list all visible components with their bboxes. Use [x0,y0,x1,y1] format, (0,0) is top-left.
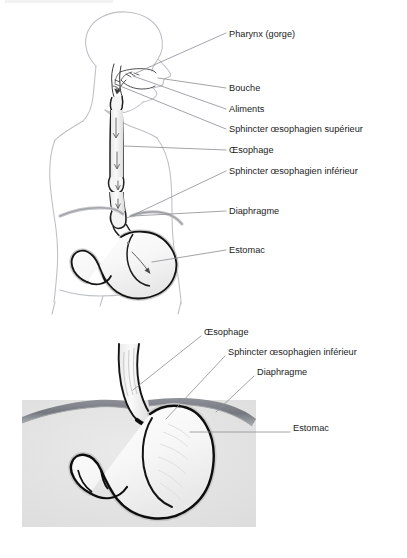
label-sphincter-oesophagien-inferieur-magnified: Sphincter œsophagien inférieur [228,347,357,358]
anatomy-figure-root: Pharynx (gorge) Bouche Aliments Sphincte… [0,0,407,558]
label-diaphragme-magnified: Diaphragme [257,367,307,378]
torso-continuation-lines [52,302,181,314]
upper-figure-group [50,12,226,306]
lower-figure-group [22,302,290,527]
label-pharynx: Pharynx (gorge) [229,29,295,40]
leader-oesophage [124,146,226,150]
leader-pharynx [136,33,226,73]
stomach-upper [72,232,177,299]
label-estomac: Estomac [229,245,265,256]
label-estomac-magnified: Estomac [293,423,329,434]
leader-oesophage-2 [133,336,201,390]
label-sphincter-oesophagien-superieur: Sphincter œsophagien supérieur [229,124,363,135]
label-diaphragme: Diaphragme [229,206,279,217]
leader-sphincter-inferieur [127,171,226,218]
label-aliments: Aliments [229,104,264,115]
esophagus-upper [109,96,134,237]
anatomy-diagram-canvas [0,0,407,558]
label-oesophage: Œsophage [229,145,274,156]
upper-leader-lines [120,33,226,262]
label-sphincter-oesophagien-inferieur: Sphincter œsophagien inférieur [229,166,358,177]
label-oesophage-magnified: Œsophage [204,327,249,338]
label-bouche: Bouche [229,83,260,94]
leader-bouche [158,78,226,88]
